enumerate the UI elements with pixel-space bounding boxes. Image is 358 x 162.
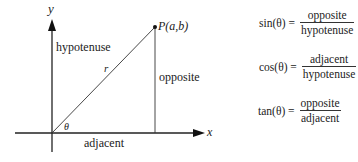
sin-lhs: sin(θ) =	[259, 17, 295, 29]
x-axis-label: x	[207, 126, 212, 138]
cos-denominator: hypotenuse	[302, 67, 356, 80]
tan-fraction: opposite adjacent	[300, 97, 341, 124]
hypotenuse-label: hypotenuse	[56, 41, 111, 53]
tan-formula: tan(θ) = opposite adjacent	[258, 97, 341, 124]
cos-lhs: cos(θ) =	[259, 61, 297, 73]
sin-formula: sin(θ) = opposite hypotenuse	[259, 9, 354, 36]
y-axis-label: y	[48, 2, 54, 15]
hypotenuse-r-label: r	[104, 63, 108, 74]
opposite-label: opposite	[159, 71, 200, 83]
tan-lhs: tan(θ) =	[258, 105, 295, 117]
sin-fraction: opposite hypotenuse	[300, 9, 354, 36]
cos-formula: cos(θ) = adjacent hypotenuse	[259, 53, 356, 80]
point-p-coords: (a,b)	[165, 19, 188, 33]
point-p-dot	[153, 25, 157, 29]
x-axis-arrow-icon	[193, 129, 205, 137]
cos-numerator: adjacent	[309, 53, 349, 66]
angle-theta-label: θ	[64, 122, 69, 132]
tan-denominator: adjacent	[300, 111, 340, 124]
adjacent-label: adjacent	[84, 137, 124, 149]
cos-fraction: adjacent hypotenuse	[302, 53, 356, 80]
y-axis-arrow-icon	[48, 19, 56, 31]
sin-denominator: hypotenuse	[300, 23, 354, 36]
trig-ratio-diagram: y x P(a,b) hypotenuse r opposite θ adjac…	[0, 0, 358, 162]
sin-numerator: opposite	[307, 9, 348, 22]
tan-numerator: opposite	[300, 97, 341, 110]
point-p-label: P(a,b)	[158, 20, 188, 32]
